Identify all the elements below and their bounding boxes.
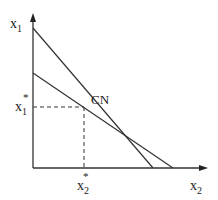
- shallow-line: [33, 73, 173, 168]
- x-axis-arrow-icon: [199, 165, 208, 171]
- diagram-canvas: x1 x2 CN x1 * x2 *: [0, 0, 218, 200]
- y-axis-arrow-icon: [30, 13, 36, 22]
- x-star-sup: *: [83, 170, 89, 182]
- point-label: CN: [91, 92, 110, 107]
- y-axis-label: x1: [10, 16, 22, 34]
- x-axis-label: x2: [190, 178, 202, 196]
- y-star-sup: *: [23, 91, 29, 103]
